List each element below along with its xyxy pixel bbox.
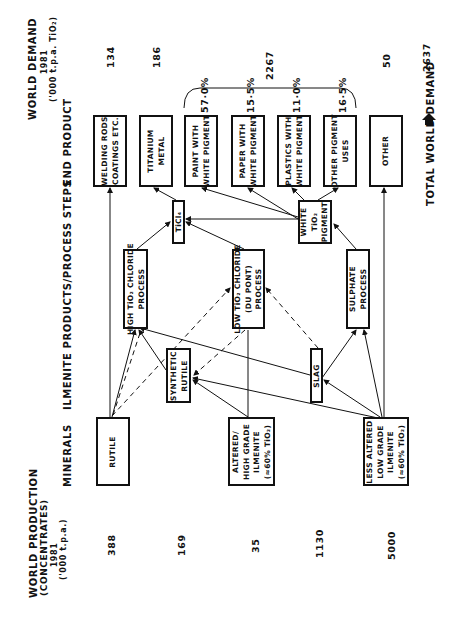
box-other[interactable]: OTHER xyxy=(369,115,403,187)
header-process-steps: ILMENITE PRODUCTS/PROCESS STEPS xyxy=(62,180,73,410)
header-world-production: WORLD PRODUCTION xyxy=(28,468,39,598)
box-white-pigment[interactable]: WHITETiO₂PIGMENT xyxy=(298,200,332,244)
share-paper: 15·5% xyxy=(245,77,256,113)
production-synthetic-rutile: 169 xyxy=(176,534,187,556)
demand-welding: 134 xyxy=(105,46,116,68)
total-world-demand-label: TOTAL WORLD DEMAND xyxy=(425,61,436,206)
box-titanium-metal[interactable]: TITANIUMMETAL xyxy=(139,115,173,187)
box-low-chloride[interactable]: LOW TiO₂ CHLORIDE(DU PONT)PROCESS xyxy=(232,249,265,329)
up-arrow-stem xyxy=(425,120,433,125)
box-plastics[interactable]: PLASTICS WITHWHITE PIGMENT xyxy=(277,115,311,187)
header-world-production-sub: (CONCENTRATES) xyxy=(39,499,49,596)
box-paper[interactable]: PAPER WITHWHITE PIGMENT xyxy=(231,115,265,187)
box-synthetic-rutile[interactable]: SYNTHETICRUTILE xyxy=(166,348,191,403)
box-other-pigment[interactable]: OTHER PIGMENTUSES xyxy=(323,115,357,187)
box-ticl4[interactable]: TiCl₄ xyxy=(172,200,185,244)
box-paint[interactable]: PAINT WITHWHITE PIGMENT xyxy=(184,115,218,187)
box-slag[interactable]: SLAG xyxy=(310,348,323,403)
share-plastics: 11·0% xyxy=(291,77,302,113)
demand-other: 50 xyxy=(381,54,392,68)
header-world-demand: WORLD DEMAND xyxy=(27,18,38,120)
header-end-product: END PRODUCT xyxy=(62,98,73,186)
demand-titanium-metal: 186 xyxy=(151,46,162,68)
production-rutile: 388 xyxy=(106,534,117,556)
share-paint: 57·0% xyxy=(199,77,210,113)
production-less-altered: 5000 xyxy=(386,531,397,560)
box-high-chloride[interactable]: HIGH TiO₂ CHLORIDEPROCESS xyxy=(123,249,148,329)
box-less-altered-ilmenite[interactable]: LESS ALTEREDLOW GRADEILMENITE(≈60% TiO₂) xyxy=(363,417,409,486)
demand-pigment-total: 2267 xyxy=(264,51,275,80)
box-sulphate[interactable]: SULPHATEPROCESS xyxy=(346,249,370,329)
production-slag: 1130 xyxy=(314,529,325,558)
header-world-production-unit: ('000 t.p.a.) xyxy=(58,519,69,580)
share-other-pigment: 16·5% xyxy=(337,77,348,113)
box-rutile[interactable]: RUTILE xyxy=(96,417,130,486)
production-altered: 35 xyxy=(250,539,261,553)
box-altered-ilmenite[interactable]: ALTERED/HIGH GRADEILMENITE(≈60% TiO₂) xyxy=(228,417,275,486)
box-welding[interactable]: WELDING RODSCOATINGS ETC. xyxy=(93,115,127,187)
header-world-demand-unit: ('000 t.p.a. TiO₂) xyxy=(48,22,59,102)
header-minerals: MINERALS xyxy=(62,424,73,487)
up-arrow-icon xyxy=(422,113,436,120)
